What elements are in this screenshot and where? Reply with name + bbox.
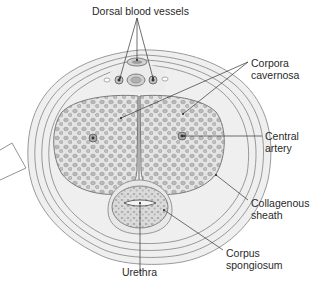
label-central-artery: Central artery [265, 130, 299, 154]
label-dorsal-blood-vessels: Dorsal blood vessels [92, 5, 189, 17]
label-corpora-cavernosa: Corpora cavernosa [251, 57, 299, 81]
label-urethra: Urethra [122, 266, 157, 278]
label-corpus-line1: Corpus [226, 247, 283, 259]
label-corpora-line2: cavernosa [251, 69, 299, 81]
label-collagenous-line2: sheath [251, 209, 309, 221]
label-corpora-line1: Corpora [251, 57, 299, 69]
corpus-cavernosum-left [54, 95, 138, 194]
label-collagenous-line1: Collagenous [251, 197, 309, 209]
label-central-line1: Central [265, 130, 299, 142]
fragment-shape [0, 143, 26, 180]
label-collagenous-sheath: Collagenous sheath [251, 197, 309, 221]
label-corpus-line2: spongiosum [226, 259, 283, 271]
label-corpus-spongiosum: Corpus spongiosum [226, 247, 283, 271]
corpus-cavernosum-right [140, 95, 224, 194]
label-central-line2: artery [265, 142, 299, 154]
